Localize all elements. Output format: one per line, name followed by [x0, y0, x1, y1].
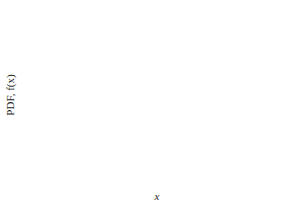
chi-squared-pdf-chart: x PDF, f(x): [0, 0, 284, 212]
y-axis-label: PDF, f(x): [4, 74, 17, 116]
x-axis-label: x: [154, 190, 160, 202]
